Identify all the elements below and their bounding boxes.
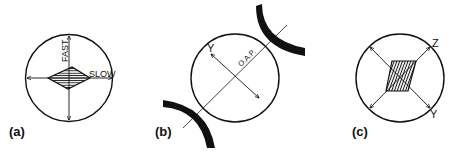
y-label-c: Y <box>430 108 438 120</box>
circle-b <box>191 34 279 122</box>
panel-label-a: (a) <box>9 124 25 139</box>
slow-label: SLOW <box>89 69 116 79</box>
figure-canvas: FAST SLOW (a) Y O.A.P. (b) Z Y (c) <box>0 0 457 155</box>
y-label-b: Y <box>207 42 215 54</box>
z-label: Z <box>432 37 439 49</box>
fast-label: FAST <box>60 39 70 62</box>
panel-label-c: (c) <box>352 124 368 139</box>
panel-c: Z Y (c) <box>352 34 444 139</box>
y-axis-arrow <box>211 54 259 98</box>
hatched-diamond <box>48 67 90 89</box>
hatched-parallelogram <box>386 61 416 91</box>
panel-b: Y O.A.P. (b) <box>155 4 305 148</box>
panel-label-b: (b) <box>155 124 172 139</box>
panel-a: FAST SLOW (a) <box>9 35 116 140</box>
